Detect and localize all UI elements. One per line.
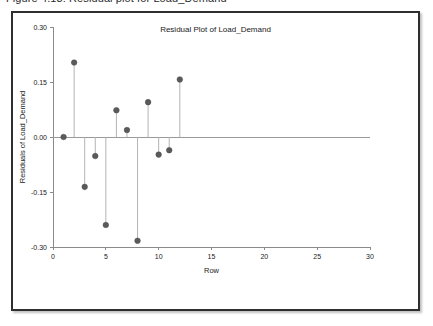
data-point-marker [145,99,151,105]
data-point-marker [92,153,98,159]
x-axis-tick-label: 10 [155,253,163,260]
data-point-marker [135,238,141,244]
x-axis-tick-label: 15 [208,253,216,260]
y-axis-tick-label: 0.00 [33,134,47,141]
x-axis-tick-label: 5 [104,253,108,260]
data-point-marker [71,60,77,66]
data-point-marker [166,147,172,153]
x-axis-title: Row [204,266,220,275]
y-axis-tick-label: -0.15 [31,189,47,196]
data-point-marker [114,107,120,113]
x-axis-tick-label: 0 [51,253,55,260]
y-axis-title: Residuals of Load_Demand [18,91,27,184]
data-point-marker [156,152,162,158]
x-axis-tick-label: 30 [366,253,374,260]
data-point-marker [177,77,183,83]
residual-plot-chart: -0.30-0.150.000.150.30051015202530RowRes… [0,0,422,315]
data-point-marker [103,222,109,228]
y-axis-tick-label: 0.15 [33,79,47,86]
x-axis-tick-label: 20 [260,253,268,260]
y-axis-tick-label: 0.30 [33,24,47,31]
y-axis-tick-label: -0.30 [31,244,47,251]
data-point-marker [124,127,130,133]
data-point-marker [61,134,67,140]
x-axis-tick-label: 25 [313,253,321,260]
data-point-marker [82,184,88,190]
